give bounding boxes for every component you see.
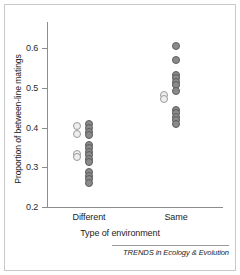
y-tick-mark	[42, 88, 47, 89]
data-point	[172, 42, 180, 50]
data-point	[85, 179, 93, 187]
y-tick-label: 0.6	[26, 44, 38, 53]
y-tick-label: 0.4	[26, 123, 38, 132]
data-point	[85, 131, 93, 139]
y-axis-title: Proportion of between-line matings	[13, 39, 23, 199]
data-point	[85, 158, 93, 166]
data-point	[172, 56, 180, 64]
footer-divider	[112, 245, 229, 246]
data-point	[73, 122, 81, 130]
x-axis-line	[47, 207, 223, 208]
y-tick-label: 0.2	[26, 203, 38, 212]
y-tick-mark	[42, 167, 47, 168]
data-point	[73, 130, 81, 138]
y-tick-mark	[42, 48, 47, 49]
journal-credit: TRENDS in Ecology & Evolution	[123, 248, 229, 257]
y-axis-line	[47, 22, 48, 208]
x-tick-label-different: Different	[73, 212, 106, 222]
data-point	[73, 153, 81, 161]
y-tick-label: 0.5	[26, 83, 38, 92]
x-tick-label-same: Same	[164, 212, 187, 222]
data-point	[172, 120, 180, 128]
y-tick-mark	[42, 207, 47, 208]
x-axis-title: Type of environment	[0, 228, 240, 238]
y-tick-label: 0.3	[26, 163, 38, 172]
figure-panel: 0.20.30.40.50.6 DifferentSame Proportion…	[0, 0, 240, 275]
data-point	[160, 95, 168, 103]
data-point	[172, 87, 180, 95]
y-tick-mark	[42, 128, 47, 129]
